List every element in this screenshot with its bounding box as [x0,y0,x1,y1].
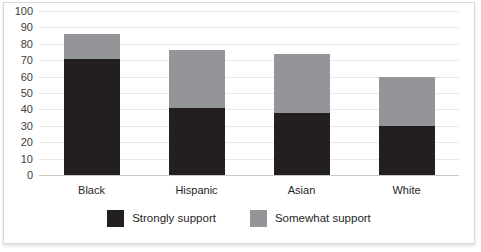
axis-baseline [39,175,459,176]
legend-item[interactable]: Somewhat support [250,210,371,227]
gridline [39,11,459,12]
y-axis-tick-label: 50 [21,88,33,99]
y-axis-tick-label: 60 [21,71,33,82]
x-axis-tick-label: Hispanic [175,185,217,196]
legend-label: Strongly support [132,213,216,225]
x-axis-tick-label: Black [78,185,105,196]
x-axis-tick-label: Asian [288,185,316,196]
legend-swatch-icon [250,210,267,227]
y-axis-tick-label: 20 [21,137,33,148]
legend-swatch-icon [107,210,124,227]
y-axis-tick-label: 40 [21,104,33,115]
plot-area: 0102030405060708090100BlackHispanicAsian… [39,11,459,175]
bar-segment-strongly-support[interactable] [274,113,330,175]
bar-segment-somewhat-support[interactable] [379,77,435,126]
legend-label: Somewhat support [275,213,371,225]
legend-item[interactable]: Strongly support [107,210,216,227]
bar-segment-somewhat-support[interactable] [169,50,225,107]
y-axis-tick-label: 80 [21,38,33,49]
y-axis-tick-label: 90 [21,22,33,33]
chart-legend: Strongly supportSomewhat support [4,210,474,227]
chart-card: 0102030405060708090100BlackHispanicAsian… [3,2,475,244]
bar-group[interactable]: Black [64,34,120,175]
bar-segment-strongly-support[interactable] [64,59,120,175]
y-axis-tick-label: 100 [15,6,33,17]
gridline [39,27,459,28]
bar-group[interactable]: Asian [274,54,330,175]
y-axis-tick-label: 10 [21,153,33,164]
x-axis-tick-label: White [392,185,420,196]
y-axis-tick-label: 70 [21,55,33,66]
y-axis-tick-label: 30 [21,120,33,131]
bar-segment-somewhat-support[interactable] [274,54,330,113]
bar-segment-strongly-support[interactable] [379,126,435,175]
bar-segment-somewhat-support[interactable] [64,34,120,59]
y-axis-tick-label: 0 [27,170,33,181]
bar-group[interactable]: Hispanic [169,50,225,175]
bar-segment-strongly-support[interactable] [169,108,225,175]
bar-group[interactable]: White [379,77,435,175]
